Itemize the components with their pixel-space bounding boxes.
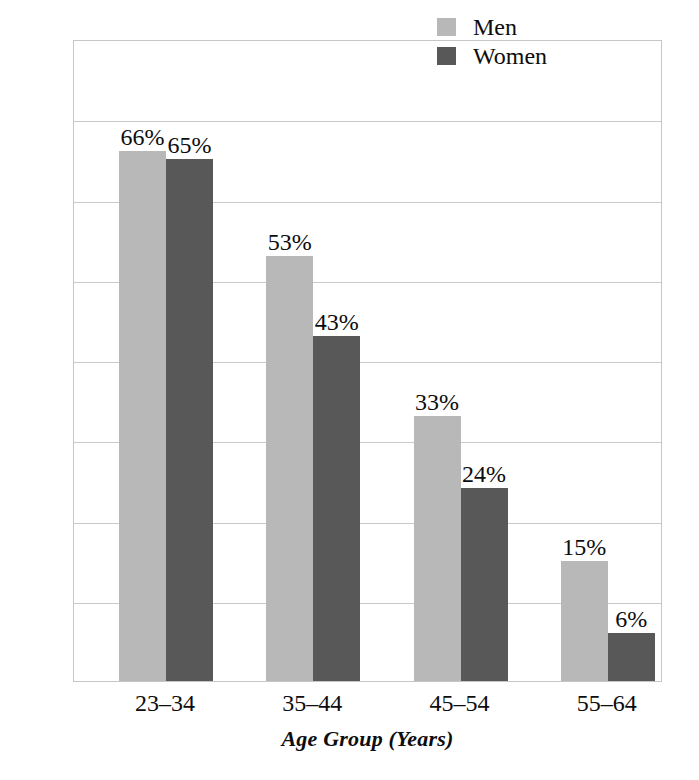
- x-axis-title: Age Group (Years): [73, 726, 662, 752]
- legend-swatch-women-icon: [437, 47, 456, 65]
- bar-value-label: 6%: [598, 607, 665, 631]
- bar-men-23-34[interactable]: [119, 151, 166, 681]
- bar-women-55-64[interactable]: [608, 633, 655, 681]
- bar-women-23-34[interactable]: [166, 159, 213, 681]
- legend-label-men: Men: [473, 15, 517, 39]
- legend: Men Women: [437, 12, 587, 70]
- plot-area: 66%65%53%43%33%24%15%6%: [73, 40, 662, 682]
- y-axis-title: Percentage Who Cohabitated Before Marria…: [0, 0, 30, 82]
- bar-value-label: 15%: [551, 535, 618, 559]
- x-tick-label: 35–44: [252, 690, 372, 716]
- bar-value-label: 43%: [303, 310, 370, 334]
- bars-layer: 66%65%53%43%33%24%15%6%: [74, 41, 661, 681]
- bar-men-45-54[interactable]: [414, 416, 461, 681]
- legend-item-women[interactable]: Women: [437, 41, 587, 70]
- legend-item-men[interactable]: Men: [437, 12, 587, 41]
- x-axis-tick-labels: 23–3435–4445–5455–64: [73, 690, 662, 722]
- bar-value-label: 24%: [451, 462, 518, 486]
- bar-value-label: 53%: [256, 230, 323, 254]
- bar-women-35-44[interactable]: [313, 336, 360, 681]
- bar-chart: Percentage Who Cohabitated Before Marria…: [0, 0, 699, 780]
- x-tick-label: 23–34: [105, 690, 225, 716]
- legend-swatch-men-icon: [437, 18, 456, 36]
- x-tick-label: 55–64: [547, 690, 667, 716]
- legend-label-women: Women: [473, 44, 547, 68]
- x-tick-label: 45–54: [400, 690, 520, 716]
- bar-value-label: 33%: [404, 390, 471, 414]
- bar-women-45-54[interactable]: [461, 488, 508, 681]
- bar-value-label: 65%: [156, 133, 223, 157]
